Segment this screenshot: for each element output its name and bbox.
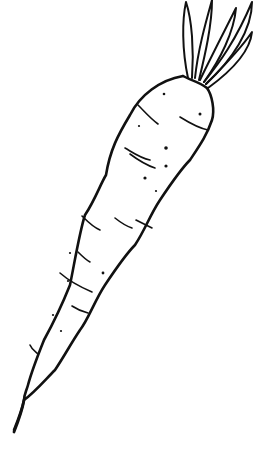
carrot-leaves [183,0,252,88]
carrot-body-outline [14,76,213,430]
carrot-root-tip [14,400,24,432]
illustration-canvas: Black-and-white outline sketch of a carr… [0,0,275,470]
carrot-illustration [0,0,275,470]
